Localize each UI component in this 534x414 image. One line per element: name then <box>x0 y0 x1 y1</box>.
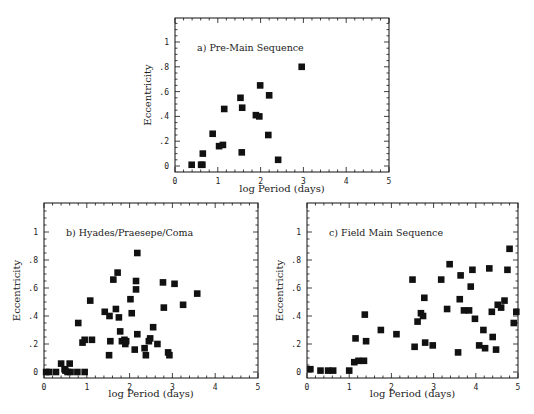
x-tick-label: 4 <box>473 383 478 392</box>
data-point <box>134 331 141 338</box>
data-point <box>46 369 53 376</box>
data-point <box>74 369 81 376</box>
data-point <box>133 278 140 285</box>
data-point <box>307 366 314 373</box>
data-point <box>106 352 113 359</box>
data-point <box>131 346 138 353</box>
data-point <box>199 161 206 168</box>
data-point <box>66 360 73 367</box>
data-point <box>53 369 60 376</box>
y-tick-label: 1 <box>164 38 169 47</box>
data-point <box>265 132 272 139</box>
data-point <box>317 367 324 374</box>
data-point <box>239 104 246 111</box>
x-axis-label: log Period (days) <box>108 388 194 399</box>
data-point <box>107 338 114 345</box>
data-point <box>446 261 453 268</box>
y-tick-label: .8 <box>159 63 169 72</box>
data-point <box>363 338 370 345</box>
data-point <box>457 272 464 279</box>
y-axis-label: Eccentricity <box>11 259 22 321</box>
data-point <box>106 313 113 320</box>
data-point <box>194 290 201 297</box>
data-point <box>422 339 429 346</box>
data-point <box>221 106 228 113</box>
data-point <box>420 313 427 320</box>
y-tick-label: .4 <box>159 112 169 121</box>
data-point <box>429 342 436 349</box>
y-axis-label: Eccentricity <box>274 259 285 321</box>
data-point <box>444 306 451 313</box>
data-point <box>409 276 416 283</box>
data-point <box>150 324 157 331</box>
data-point <box>489 334 496 341</box>
data-point <box>134 250 141 257</box>
data-point <box>133 286 140 293</box>
data-point <box>166 352 173 359</box>
y-tick-label: .2 <box>291 340 301 349</box>
data-point <box>89 337 96 344</box>
data-point <box>67 369 74 376</box>
data-point <box>352 335 359 342</box>
data-point <box>466 307 473 314</box>
data-point <box>237 95 244 102</box>
data-point <box>510 320 517 327</box>
data-point <box>257 82 264 89</box>
data-point <box>501 297 508 304</box>
data-point <box>438 276 445 283</box>
data-point <box>298 64 305 71</box>
data-point <box>256 113 263 120</box>
data-point <box>87 297 94 304</box>
x-tick-label: 4 <box>213 383 218 392</box>
data-point <box>143 352 150 359</box>
data-point <box>141 345 148 352</box>
y-tick-label: 0 <box>33 368 38 377</box>
data-point <box>75 320 82 327</box>
x-tick-label: 5 <box>387 177 392 186</box>
y-tick-label: .6 <box>159 88 169 97</box>
y-tick-label: .2 <box>159 137 169 146</box>
x-tick-label: 0 <box>173 177 178 186</box>
y-tick-label: 0 <box>164 162 169 171</box>
data-point <box>393 331 400 338</box>
data-point <box>110 276 117 283</box>
data-point <box>154 341 161 348</box>
data-point <box>469 267 476 274</box>
data-point <box>476 342 483 349</box>
data-point <box>200 150 207 157</box>
y-axis-label: Eccentricity <box>142 64 153 126</box>
panel-title: a) Pre-Main Sequence <box>197 42 304 53</box>
data-point <box>455 349 462 356</box>
figure: 0123450.2.4.6.81log Period (days)Eccentr… <box>0 0 534 414</box>
y-tick-label: 1 <box>33 228 38 237</box>
y-tick-label: 0 <box>296 368 301 377</box>
data-point <box>513 309 520 316</box>
data-point <box>480 327 487 334</box>
data-point <box>238 149 245 156</box>
data-point <box>147 335 154 342</box>
panel-a-pre-main-sequence: 0123450.2.4.6.81log Period (days)Eccentr… <box>142 18 392 194</box>
panel-title: b) Hyades/Praesepe/Coma <box>66 227 194 238</box>
data-point <box>209 130 216 137</box>
data-point <box>506 246 513 253</box>
y-tick-label: 1 <box>296 228 301 237</box>
data-point <box>171 281 178 288</box>
panel-title: c) Field Main Sequence <box>329 227 443 238</box>
panel-b-hyades-praesepe-coma: 0123450.2.4.6.81log Period (days)Eccentr… <box>11 203 261 399</box>
data-point <box>486 265 493 272</box>
data-point <box>467 283 474 290</box>
data-point <box>489 309 496 316</box>
data-point <box>482 345 489 352</box>
data-point <box>160 279 167 286</box>
data-point <box>456 296 463 303</box>
y-tick-label: .2 <box>28 340 38 349</box>
data-point <box>330 367 337 374</box>
x-tick-label: 1 <box>215 177 220 186</box>
x-tick-label: 5 <box>256 383 261 392</box>
data-point <box>361 358 368 365</box>
x-tick-label: 1 <box>347 383 352 392</box>
data-point <box>81 369 88 376</box>
data-point <box>472 316 479 323</box>
data-point <box>493 346 500 353</box>
data-point <box>123 338 130 345</box>
